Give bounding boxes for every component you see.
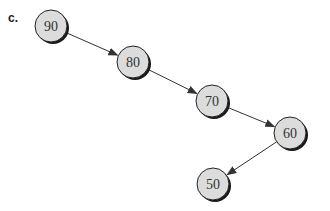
node-value: 80 xyxy=(126,55,140,70)
edge-80-to-70 xyxy=(147,69,196,93)
tree-node-90: 90 xyxy=(35,10,69,44)
node-value: 90 xyxy=(44,19,58,34)
edge-60-to-50 xyxy=(227,142,276,175)
nodes: 9080706050 xyxy=(35,10,308,202)
edge-90-to-80 xyxy=(66,32,118,55)
node-value: 60 xyxy=(283,126,297,141)
tree-node-70: 70 xyxy=(196,85,230,119)
tree-diagram: 9080706050 xyxy=(0,0,330,211)
tree-node-60: 60 xyxy=(274,117,308,151)
edge-70-to-60 xyxy=(227,107,274,126)
tree-node-50: 50 xyxy=(197,168,231,202)
tree-node-80: 80 xyxy=(117,46,151,80)
edges xyxy=(66,32,277,174)
node-value: 70 xyxy=(205,94,219,109)
node-value: 50 xyxy=(206,177,220,192)
